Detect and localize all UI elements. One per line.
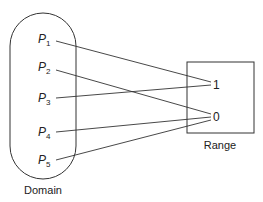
- domain-element-p2: P2: [38, 60, 51, 76]
- range-value-0: 0: [213, 110, 220, 124]
- mapping-line-p5: [56, 120, 211, 160]
- mapping-line-p3: [56, 85, 211, 98]
- mapping-line-p2: [56, 70, 211, 114]
- domain-element-p4: P4: [38, 125, 51, 141]
- range-box: [187, 62, 254, 133]
- domain-element-p5: P5: [38, 153, 51, 169]
- mapping-arrows: [56, 41, 211, 160]
- range-label: Range: [204, 139, 236, 151]
- domain-element-p1: P1: [38, 32, 51, 48]
- mapping-line-p4: [56, 117, 211, 132]
- domain-label: Domain: [24, 184, 62, 196]
- domain-element-p3: P3: [38, 91, 51, 107]
- range-value-1: 1: [213, 78, 220, 92]
- function-mapping-diagram: P1 P2 P3 P4 P5 1 0 Domain Range: [0, 0, 263, 202]
